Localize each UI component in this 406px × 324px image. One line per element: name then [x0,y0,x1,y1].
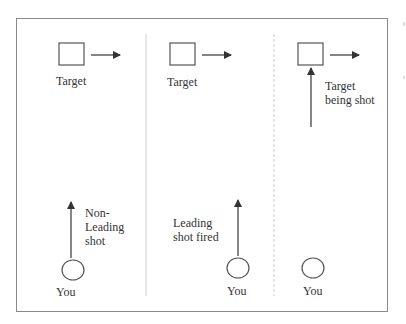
shooter-circle-icon [302,258,324,278]
target-box-icon [298,43,323,65]
target-label: Target [56,74,86,88]
target-label: Target [167,75,197,89]
shooter-circle-icon [227,258,249,278]
target-box-icon [59,43,84,65]
shooter-circle-icon [62,260,84,280]
shooter-label: You [303,284,322,298]
edge-artifact [403,76,405,79]
target-box-icon [170,43,195,65]
shooter-label: You [227,284,246,298]
shooter-label: You [56,285,75,299]
target-label: Target being shot [325,79,375,107]
diagram-canvas [0,0,406,324]
edge-artifact [403,22,405,26]
shot-label: Non- Leading shot [85,206,124,248]
shot-label: Leading shot fired [173,216,219,244]
